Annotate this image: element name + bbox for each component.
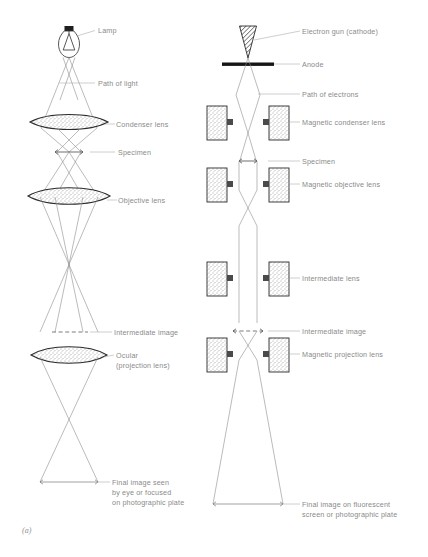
electron-gun-icon	[240, 26, 257, 58]
final-image-plane	[40, 480, 98, 484]
label-magnetic-condenser-lens: Magnetic condenser lens	[302, 118, 386, 127]
specimen-bar	[239, 159, 257, 163]
label-intermediate-image: Intermediate image	[114, 328, 178, 337]
label-specimen: Specimen	[118, 148, 151, 157]
label-final-image-line2: by eye or focused	[112, 488, 171, 497]
label-ocular-line1: Ocular	[116, 351, 139, 360]
magnetic-projection-lens-right	[263, 338, 289, 372]
label-lamp: Lamp	[98, 26, 117, 35]
label-intermediate-lens: Intermediate lens	[302, 274, 360, 283]
label-path-of-electrons: Path of electrons	[302, 90, 359, 99]
light-microscope-column: Lamp Path of light Condenser lens Specim…	[22, 26, 184, 535]
label-condenser-lens: Condenser lens	[116, 120, 169, 129]
label-magnetic-objective-lens: Magnetic objective lens	[302, 180, 380, 189]
magnetic-objective-lens-left	[207, 168, 233, 202]
label-anode: Anode	[302, 60, 324, 69]
label-final-image-em-line2: screen or photographic plate	[302, 510, 397, 519]
label-ocular-line2: (projection lens)	[116, 361, 170, 370]
label-objective-lens: Objective lens	[118, 196, 165, 205]
ocular-lens	[31, 347, 107, 364]
anode-bar	[222, 63, 274, 66]
label-path-of-light: Path of light	[98, 79, 138, 88]
lamp-icon	[59, 26, 80, 58]
microscope-comparison-figure: Lamp Path of light Condenser lens Specim…	[0, 0, 428, 557]
label-specimen-em: Specimen	[302, 157, 335, 166]
label-intermediate-image-em: Intermediate image	[302, 327, 366, 336]
label-magnetic-projection-lens: Magnetic projection lens	[302, 350, 383, 359]
condenser-lens	[30, 115, 108, 130]
intermediate-lens-right	[263, 262, 289, 296]
label-final-image-em-line1: Final image on fluorescent	[302, 500, 390, 509]
final-image-plane-em	[213, 502, 283, 506]
intermediate-image-plane-em	[233, 329, 263, 333]
magnetic-objective-lens-right	[263, 168, 289, 202]
objective-lens	[28, 188, 110, 205]
intermediate-lens-left	[207, 262, 233, 296]
label-final-image-line1: Final image seen	[112, 478, 169, 487]
label-final-image-line3: on photographic plate	[112, 498, 184, 507]
label-electron-gun: Electron gun (cathode)	[302, 27, 378, 36]
magnetic-condenser-lens-left	[207, 106, 233, 140]
magnetic-projection-lens-left	[207, 338, 233, 372]
panel-label: (a)	[22, 526, 32, 535]
magnetic-condenser-lens-right	[263, 106, 289, 140]
electron-microscope-column: Electron gun (cathode) Anode Path of ele…	[207, 26, 397, 519]
